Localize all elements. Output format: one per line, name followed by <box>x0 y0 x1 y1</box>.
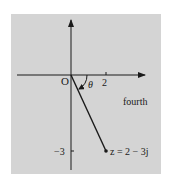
point-label: z = 2 − 3j <box>110 146 149 157</box>
point-z <box>104 149 108 153</box>
angle-label: θ <box>88 79 93 90</box>
angle-arc <box>79 75 87 89</box>
quadrant-label: fourth <box>123 96 147 107</box>
y-tick-label: −3 <box>54 146 65 157</box>
argand-diagram: O θ 2 fourth −3 z = 2 − 3j <box>0 0 169 181</box>
x-tick-label: 2 <box>102 77 107 88</box>
origin-label: O <box>61 75 69 87</box>
